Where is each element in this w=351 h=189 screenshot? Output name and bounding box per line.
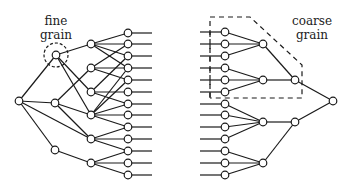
edge — [91, 127, 128, 139]
node — [259, 118, 267, 126]
node — [221, 52, 229, 60]
node — [87, 111, 95, 119]
edge — [56, 44, 91, 55]
node — [124, 135, 132, 143]
node — [221, 64, 229, 72]
node — [51, 99, 59, 107]
edge — [263, 122, 295, 163]
edge — [91, 139, 128, 151]
node — [124, 29, 132, 37]
edge — [91, 151, 128, 163]
node — [259, 76, 267, 84]
edge — [91, 115, 128, 127]
node — [221, 159, 229, 167]
node — [291, 76, 299, 84]
edge — [225, 44, 263, 56]
node — [329, 97, 337, 105]
node — [87, 40, 95, 48]
node — [87, 159, 95, 167]
node — [124, 76, 132, 84]
node — [221, 111, 229, 119]
node — [221, 88, 229, 96]
edge — [225, 115, 263, 122]
coarse-label-line1: coarse — [286, 14, 338, 28]
node — [52, 51, 60, 59]
node — [124, 52, 132, 60]
edge — [225, 104, 263, 122]
node — [221, 28, 229, 36]
node — [221, 76, 229, 84]
node — [221, 123, 229, 131]
node — [124, 123, 132, 131]
edge — [295, 101, 333, 122]
node — [124, 40, 132, 48]
coarse-grain-label: coarse grain — [286, 14, 338, 42]
node — [124, 147, 132, 155]
node — [124, 111, 132, 119]
node — [259, 40, 267, 48]
node — [221, 100, 229, 108]
fine-label-line2: grain — [34, 28, 78, 42]
node — [51, 146, 59, 154]
node — [221, 147, 229, 155]
edge — [225, 151, 263, 163]
edge — [19, 101, 55, 150]
node — [87, 64, 95, 72]
edge — [225, 163, 263, 175]
edge — [91, 44, 128, 56]
node — [87, 88, 95, 96]
node — [124, 64, 132, 72]
node — [221, 135, 229, 143]
coarse-label-line2: grain — [286, 28, 338, 42]
node — [124, 100, 132, 108]
node — [124, 171, 132, 179]
fine-label-line1: fine — [34, 14, 78, 28]
node — [291, 118, 299, 126]
node — [124, 88, 132, 96]
fine-grain-label: fine grain — [34, 14, 78, 42]
edge — [91, 33, 128, 44]
edge — [225, 32, 263, 44]
node — [221, 40, 229, 48]
edge — [55, 150, 91, 163]
edge — [225, 68, 263, 80]
edge — [19, 55, 56, 101]
node — [221, 171, 229, 179]
edge — [91, 56, 128, 92]
edge — [263, 44, 295, 80]
edge — [19, 101, 55, 103]
edge — [225, 80, 263, 92]
edge — [91, 163, 128, 175]
node — [87, 135, 95, 143]
node — [15, 97, 23, 105]
node — [259, 159, 267, 167]
node — [124, 159, 132, 167]
